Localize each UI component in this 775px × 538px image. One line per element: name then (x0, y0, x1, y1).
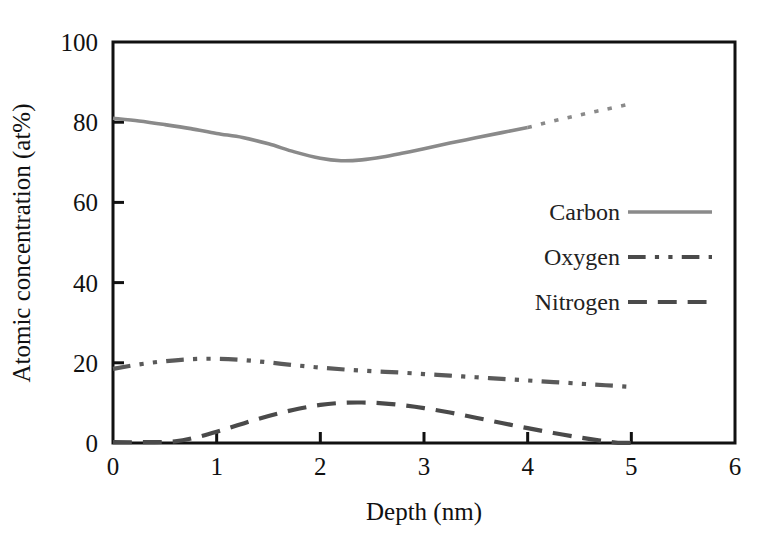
axes-border (113, 42, 735, 443)
y-tick-label: 100 (61, 29, 99, 56)
series-line-oxygen (113, 359, 631, 387)
legend-label-oxygen: Oxygen (544, 244, 620, 270)
x-tick-label: 6 (729, 453, 742, 480)
y-axis-title: Atomic concentration (at%) (8, 103, 36, 382)
legend-label-nitrogen: Nitrogen (535, 289, 620, 315)
x-axis-tick-labels: 0123456 (107, 453, 742, 480)
x-tick-label: 1 (210, 453, 223, 480)
x-tick-label: 0 (107, 453, 120, 480)
series-line-nitrogen (113, 402, 631, 443)
data-series-group (113, 104, 631, 443)
x-axis-title: Depth (nm) (366, 498, 482, 526)
y-axis-ticks (113, 122, 124, 363)
chart-figure: 0123456 020406080100 Depth (nm) Atomic c… (0, 0, 775, 538)
y-tick-label: 40 (73, 270, 98, 297)
y-tick-label: 20 (73, 350, 98, 377)
plot-frame (113, 42, 735, 443)
x-tick-label: 2 (314, 453, 327, 480)
series-line-carbon-extrapolated (528, 104, 632, 128)
y-tick-label: 60 (73, 189, 98, 216)
legend-label-carbon: Carbon (549, 199, 620, 225)
x-tick-label: 4 (521, 453, 534, 480)
y-tick-label: 0 (86, 430, 99, 457)
x-tick-label: 3 (418, 453, 431, 480)
y-axis-tick-labels: 020406080100 (61, 29, 99, 457)
series-line-carbon (113, 118, 528, 161)
chart-canvas: 0123456 020406080100 Depth (nm) Atomic c… (0, 0, 775, 538)
y-tick-label: 80 (73, 109, 98, 136)
chart-legend: CarbonOxygenNitrogen (535, 199, 712, 315)
x-tick-label: 5 (625, 453, 638, 480)
